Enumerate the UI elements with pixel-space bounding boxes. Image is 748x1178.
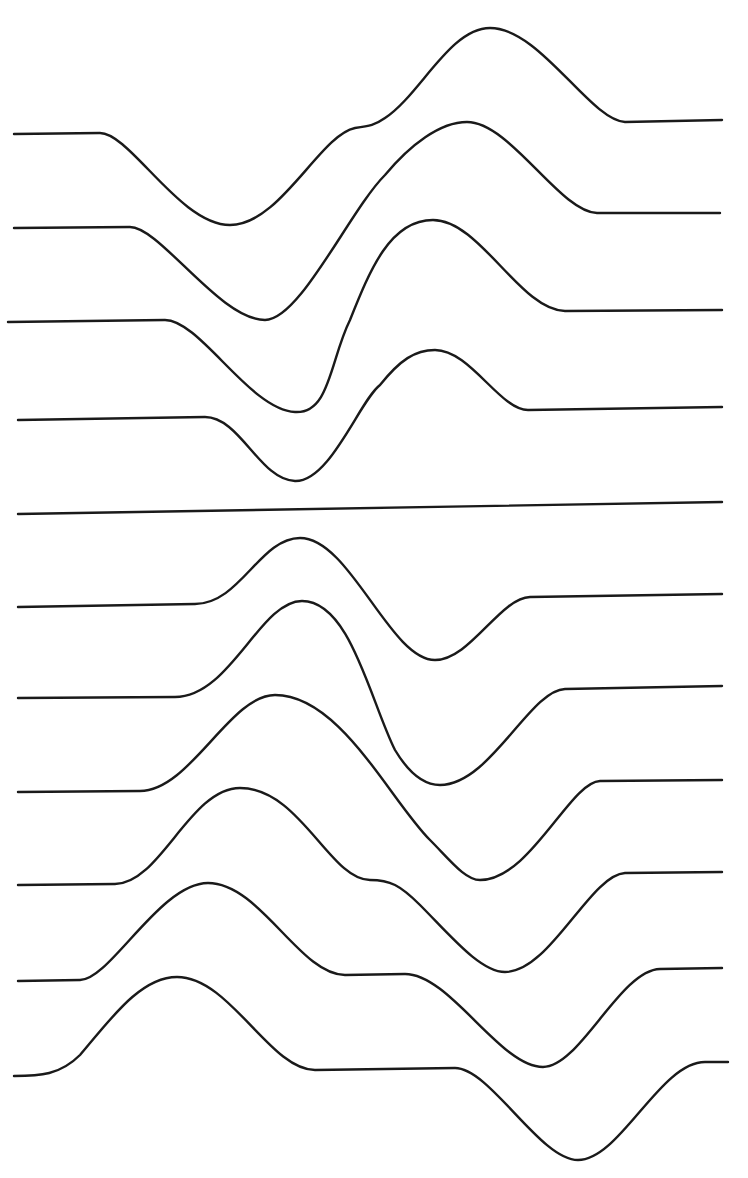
waveform-trace: [18, 538, 722, 660]
waveform-trace: [18, 601, 722, 785]
waveform-trace: [18, 883, 722, 1067]
waveform-trace: [14, 977, 728, 1160]
waveform-stack-diagram: [0, 0, 748, 1178]
waveform-trace: [18, 788, 722, 972]
waveform-trace: [18, 695, 722, 880]
waveform-trace: [8, 220, 722, 412]
waveform-trace: [18, 350, 722, 481]
baseline-trace: [18, 502, 722, 514]
waveform-trace: [14, 122, 720, 320]
